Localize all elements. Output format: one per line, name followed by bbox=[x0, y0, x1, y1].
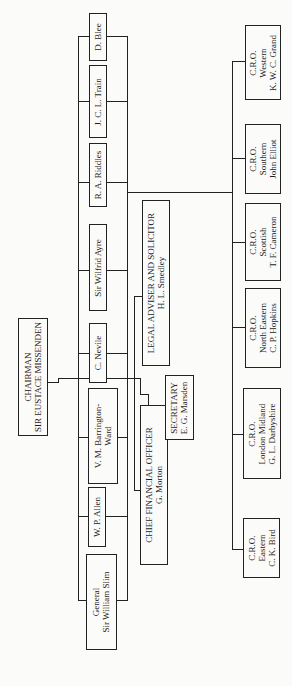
member-name: C. Nevile bbox=[93, 336, 103, 371]
cro-region: London Midland bbox=[257, 403, 267, 464]
officer-name: E. G. Marsden bbox=[180, 381, 190, 434]
cro-western: C.R.O.WesternK. W. C. Grand bbox=[245, 25, 281, 100]
cro-region: North Eastern bbox=[258, 303, 268, 353]
cro-name: John Elliot bbox=[268, 139, 278, 178]
member-name: Sir Wilfrid Ayre bbox=[93, 239, 103, 297]
board-member-train: J. C. L. Train bbox=[89, 65, 107, 138]
board-member-allen: W. P. Allen bbox=[88, 487, 106, 547]
member-name: Ward bbox=[103, 404, 113, 468]
cro-name: C. K. Bird bbox=[267, 529, 277, 567]
member-name: J. C. L. Train bbox=[93, 78, 103, 126]
cro-tick bbox=[232, 327, 245, 328]
officer-name: G. Morton bbox=[154, 427, 164, 543]
cro-role: C.R.O. bbox=[248, 303, 258, 353]
chairman-name: SIR EUSTACE MISSENDEN bbox=[33, 322, 43, 432]
cro-name: G. L. Darbyshire bbox=[267, 403, 277, 464]
cro-region: Scottish bbox=[258, 216, 268, 267]
cro-spine bbox=[232, 61, 233, 550]
board-member-riddles: R. A. Riddles bbox=[89, 143, 107, 207]
cro-region: Southern bbox=[258, 139, 268, 178]
cro-role: C.R.O. bbox=[248, 216, 258, 267]
officer-connector bbox=[134, 296, 135, 491]
secretary-box: SECRETARYE. G. Marsden bbox=[165, 375, 194, 440]
cro-tick bbox=[232, 242, 245, 243]
cro-tick bbox=[232, 61, 245, 62]
secretary-connector bbox=[140, 394, 148, 395]
cro-role: C.R.O. bbox=[248, 35, 258, 91]
cro-role: C.R.O. bbox=[247, 403, 257, 464]
officer-title: SECRETARY bbox=[170, 381, 180, 434]
board-member-slim: GeneralSir William Slim bbox=[86, 554, 117, 650]
cro-eastern: C.R.O.EasternC. K. Bird bbox=[243, 518, 280, 578]
secretary-connector bbox=[140, 378, 141, 395]
chairman-box: CHAIRMANSIR EUSTACE MISSENDEN bbox=[18, 318, 48, 436]
member-name: W. P. Allen bbox=[92, 497, 102, 537]
cro-london-midland: C.R.O.London MidlandG. L. Darbyshire bbox=[243, 388, 281, 479]
officer-connector bbox=[134, 296, 142, 297]
cro-scottish: C.R.O.ScottishT. F. Cameron bbox=[245, 203, 281, 281]
cfo-box: CHIEF FINANCIAL OFFICERG. Morton bbox=[140, 405, 168, 565]
board-member-barrington-ward: V. M. Barrington-Ward bbox=[88, 388, 118, 484]
officer-name: H. L. Smedley bbox=[156, 213, 166, 353]
officer-title: LEGAL ADVISER AND SOLICITOR bbox=[146, 213, 156, 353]
cro-role: C.R.O. bbox=[248, 139, 258, 178]
member-name: V. M. Barrington- bbox=[93, 404, 103, 468]
member-name: D. Blee bbox=[93, 23, 103, 51]
cro-name: T. F. Cameron bbox=[268, 216, 278, 267]
cro-name: K. W. C. Grand bbox=[268, 35, 278, 91]
board-member-ayre: Sir Wilfrid Ayre bbox=[89, 224, 107, 311]
cro-name: C. P. Hopkins bbox=[268, 303, 278, 353]
cro-connector bbox=[127, 192, 233, 193]
legal-adviser-box: LEGAL ADVISER AND SOLICITORH. L. Smedley bbox=[142, 200, 170, 366]
cro-southern: C.R.O.SouthernJohn Elliot bbox=[245, 124, 281, 194]
member-name: General bbox=[92, 572, 102, 633]
member-name: Sir William Slim bbox=[102, 572, 112, 633]
officer-title: CHIEF FINANCIAL OFFICER bbox=[144, 427, 154, 543]
cro-tick bbox=[232, 158, 245, 159]
cro-region: Western bbox=[258, 35, 268, 91]
chairman-title: CHAIRMAN bbox=[23, 322, 33, 432]
member-name: R. A. Riddles bbox=[93, 151, 103, 200]
board-member-blee: D. Blee bbox=[89, 13, 107, 61]
board-member-nevile: C. Nevile bbox=[89, 323, 107, 383]
cro-north-eastern: C.R.O.North EasternC. P. Hopkins bbox=[245, 288, 281, 368]
cro-region: Eastern bbox=[257, 529, 267, 567]
cro-role: C.R.O. bbox=[247, 529, 257, 567]
